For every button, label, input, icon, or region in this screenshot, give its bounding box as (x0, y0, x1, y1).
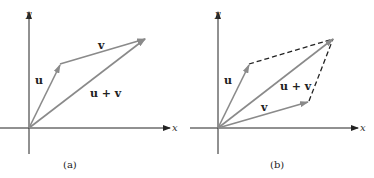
label-v: v (260, 101, 268, 114)
x-axis-label: x (172, 122, 178, 133)
label-u-plus-v: u + v (280, 80, 312, 93)
panel-b: x y u v u + v (b) (190, 8, 366, 170)
label-u: u (224, 74, 232, 87)
vector-u-plus-v (29, 39, 145, 128)
caption-a: (a) (63, 159, 77, 170)
label-u-plus-v: u + v (90, 87, 122, 100)
caption-b: (b) (270, 159, 284, 170)
vector-addition-diagram: x y u v u + v (a) x y u v u + v (b) (0, 0, 374, 178)
y-axis-label: y (214, 8, 221, 19)
label-u: u (35, 74, 43, 87)
vector-u (29, 65, 60, 128)
dashed-edge-top (249, 39, 333, 64)
x-axis-label: x (360, 122, 366, 133)
panel-a: x y u v u + v (a) (0, 8, 178, 170)
vector-u (218, 65, 249, 128)
label-v: v (97, 39, 105, 52)
y-axis-label: y (25, 8, 32, 19)
